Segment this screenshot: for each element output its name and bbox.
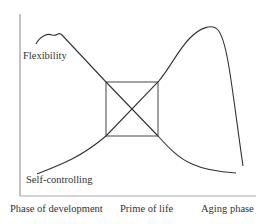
flexibility-label: Flexibility <box>23 50 67 61</box>
lifecycle-diagram <box>0 0 270 224</box>
x-label-development: Phase of development <box>10 203 103 214</box>
x-label-prime: Prime of life <box>120 203 173 214</box>
x-label-aging: Aging phase <box>201 203 254 214</box>
self-controlling-label: Self-controlling <box>26 174 93 185</box>
self-controlling-curve <box>37 27 243 174</box>
